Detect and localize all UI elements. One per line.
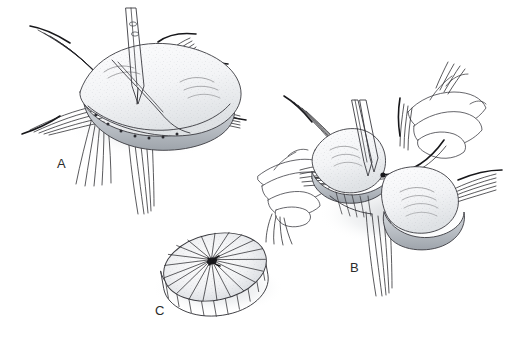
central-knot-b — [380, 172, 385, 177]
panel-a-group: A — [22, 8, 248, 214]
panel-a-label: A — [57, 156, 66, 171]
suture-bundle-b-upper-right — [399, 98, 413, 150]
suture-tails-right-b — [436, 62, 465, 94]
panel-b-group: B — [258, 62, 502, 296]
panel-b-label: B — [350, 260, 359, 275]
figure-root: A — [0, 0, 514, 348]
panel-c-label: C — [155, 303, 165, 318]
suture-bundle-b-right — [452, 170, 502, 202]
surgical-illustration: A — [0, 0, 514, 348]
